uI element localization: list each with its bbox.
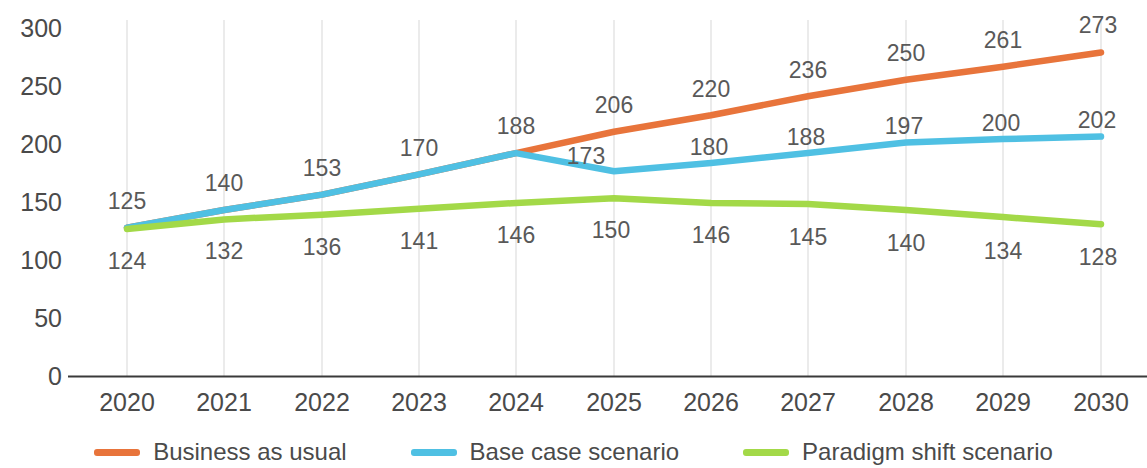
data-label-paradigm-2028: 140 <box>861 232 951 255</box>
x-axis-tick-2023: 2023 <box>364 390 474 415</box>
chart-legend: Business as usual Base case scenario Par… <box>0 440 1147 464</box>
data-label-base-2025: 173 <box>541 145 631 168</box>
x-axis-tick-2025: 2025 <box>559 390 669 415</box>
data-label-paradigm-2024: 146 <box>471 224 561 247</box>
legend-label-business-as-usual: Business as usual <box>153 440 346 464</box>
data-label-base-2030: 202 <box>1052 109 1142 132</box>
data-label-bau-2023: 170 <box>374 137 464 160</box>
data-label-base-2026: 180 <box>664 136 754 159</box>
x-axis-tick-2027: 2027 <box>753 390 863 415</box>
data-label-bau-2021: 140 <box>179 172 269 195</box>
legend-item-paradigm-shift-scenario[interactable]: Paradigm shift scenario <box>743 440 1053 464</box>
data-label-paradigm-2030: 128 <box>1053 246 1143 269</box>
data-label-paradigm-2029: 134 <box>958 240 1048 263</box>
data-label-bau-2022: 153 <box>277 157 367 180</box>
data-label-paradigm-2021: 132 <box>179 240 269 263</box>
x-axis-tick-2020: 2020 <box>72 390 182 415</box>
data-label-paradigm-2023: 141 <box>374 230 464 253</box>
legend-item-base-case-scenario[interactable]: Base case scenario <box>411 440 679 464</box>
data-label-paradigm-2022: 136 <box>277 236 367 259</box>
data-label-bau-2030: 273 <box>1053 14 1143 37</box>
x-axis-tick-2028: 2028 <box>851 390 961 415</box>
data-label-paradigm-2025: 150 <box>566 219 656 242</box>
legend-label-paradigm-shift-scenario: Paradigm shift scenario <box>802 440 1053 464</box>
data-label-bau-2025: 206 <box>569 94 659 117</box>
legend-label-base-case-scenario: Base case scenario <box>470 440 679 464</box>
x-axis-tick-2026: 2026 <box>656 390 766 415</box>
x-axis-tick-2024: 2024 <box>461 390 571 415</box>
data-label-base-2028: 197 <box>859 115 949 138</box>
line-chart: 300 250 200 150 100 50 0 125 140 153 170… <box>0 0 1147 468</box>
data-label-bau-2029: 261 <box>958 29 1048 52</box>
legend-swatch-icon-business-as-usual <box>94 449 140 456</box>
data-label-paradigm-2027: 145 <box>763 226 853 249</box>
data-label-bau-2027: 236 <box>763 59 853 82</box>
data-label-base-2027: 188 <box>761 126 851 149</box>
data-label-base-2029: 200 <box>956 112 1046 135</box>
x-axis-tick-2022: 2022 <box>267 390 377 415</box>
x-axis-tick-2029: 2029 <box>948 390 1058 415</box>
data-label-paradigm-2020: 124 <box>82 250 172 273</box>
legend-swatch-icon-paradigm-shift-scenario <box>743 449 789 456</box>
legend-item-business-as-usual[interactable]: Business as usual <box>94 440 346 464</box>
x-axis-tick-2021: 2021 <box>169 390 279 415</box>
data-label-bau-2026: 220 <box>666 78 756 101</box>
x-axis-tick-2030: 2030 <box>1046 390 1147 415</box>
data-label-paradigm-2026: 146 <box>666 224 756 247</box>
legend-swatch-icon-base-case-scenario <box>411 449 457 456</box>
data-label-bau-2020: 125 <box>82 190 172 213</box>
data-label-bau-2024: 188 <box>471 115 561 138</box>
data-label-bau-2028: 250 <box>861 42 951 65</box>
